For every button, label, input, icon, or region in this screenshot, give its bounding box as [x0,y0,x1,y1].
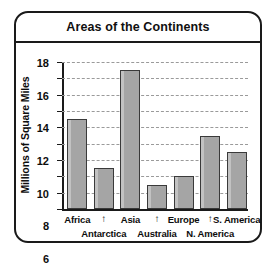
bar-africa [67,119,87,209]
bar-australia [147,185,167,210]
y-axis-tick: 4 [57,176,62,177]
y-axis-tick-label: 14 [37,122,49,134]
gridline [62,78,248,79]
gridline [62,111,248,112]
y-axis-label-text: Millions of Square Miles [19,76,31,193]
bar-asia [120,70,140,209]
y-axis-tick: 14 [57,95,62,96]
bar-s-america [227,152,247,209]
x-axis-label-australia: Australia [137,228,176,239]
x-axis-label-asia: Asia [121,214,140,225]
x-axis-label-s-america: S. America [213,214,260,225]
bar-antarctica [94,168,114,209]
x-axis-label-europe: Europe [168,214,200,225]
x-axis-line [62,209,248,211]
y-axis-tick-label: 16 [37,90,49,102]
x-axis-arrow-icon: ↑ [155,213,160,225]
y-axis-tick: 18 [57,62,62,63]
axis-box: 024681012141618 [62,62,248,211]
y-axis-tick: 12 [57,111,62,112]
y-axis-tick: 2 [57,193,62,194]
y-axis-line [62,62,64,211]
y-axis-tick: 10 [57,127,62,128]
bar-n-america [200,136,220,210]
gridline [62,127,248,128]
x-axis-arrow-icon: ↑ [101,213,106,225]
chart-title-bar: Areas of the Continents [16,13,260,43]
y-axis-tick-label: 18 [37,57,49,69]
y-axis-tick-label: 6 [43,253,49,263]
y-axis-tick-label: 10 [37,188,49,200]
y-axis-tick-label: 8 [43,220,49,232]
gridline [62,62,248,63]
y-axis-label: Millions of Square Miles [17,55,33,215]
y-axis-tick: 6 [57,160,62,161]
plot-area: Millions of Square Miles 024681012141618… [16,43,260,243]
x-axis-arrow-icon: ↑ [208,213,213,225]
y-axis-tick: 0 [57,209,62,210]
x-axis-label-antarctica: Antarctica [81,228,126,239]
x-axis-labels-group: Africa↑AntarcticaAsia↑AustraliaEurope↑N.… [62,213,248,245]
page-title: Areas of the Continents [66,20,209,34]
y-axis-tick: 16 [57,78,62,79]
x-axis-label-africa: Africa [64,214,90,225]
bar-europe [174,176,194,209]
gridline [62,95,248,96]
y-axis-tick-label: 12 [37,155,49,167]
chart-frame: Areas of the Continents Millions of Squa… [14,11,262,243]
x-axis-label-n-america: N. America [186,228,234,239]
y-axis-tick: 8 [57,144,62,145]
